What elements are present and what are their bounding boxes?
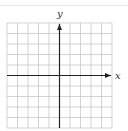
coordinate-plane: x y <box>0 0 128 131</box>
x-axis-arrow-icon <box>105 73 111 78</box>
x-axis-label: x <box>115 70 121 81</box>
y-axis-label: y <box>56 8 63 19</box>
y-axis-arrow-icon <box>57 24 62 30</box>
